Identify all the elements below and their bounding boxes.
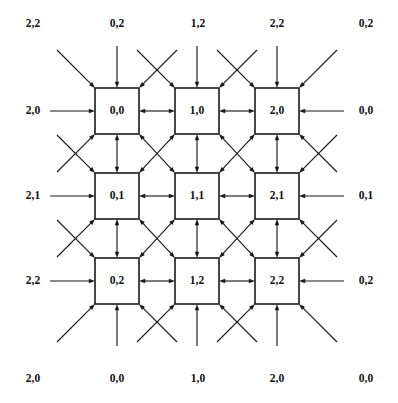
cell-label: 1,1 bbox=[190, 189, 205, 201]
edge-segment bbox=[57, 307, 92, 342]
border-arrow-right bbox=[299, 279, 344, 283]
cell-label: 2,0 bbox=[270, 104, 285, 116]
lattice-cell[interactable]: 2,1 bbox=[255, 173, 299, 219]
arrow-head-start bbox=[195, 219, 199, 225]
edge-segment bbox=[302, 222, 337, 257]
lattice-cell[interactable]: 0,0 bbox=[95, 88, 139, 134]
arrow-head-end bbox=[195, 252, 199, 258]
arrow-head-end bbox=[89, 194, 95, 198]
border-arrow-top bbox=[275, 46, 279, 88]
arrow-head-start bbox=[115, 219, 119, 225]
edge-segment bbox=[142, 50, 177, 85]
outer-diagonal-arrow-tr bbox=[299, 135, 337, 173]
cell-label: 1,0 bbox=[190, 104, 205, 116]
arrow-head-start bbox=[219, 279, 225, 283]
edge-segment bbox=[302, 307, 337, 342]
edge-segment bbox=[137, 307, 172, 342]
lattice-cell[interactable]: 0,2 bbox=[95, 258, 139, 304]
arrow-head-end bbox=[195, 167, 199, 173]
border-arrow-bottom bbox=[275, 304, 279, 346]
horizontal-arrow bbox=[219, 279, 255, 283]
border-label-right: 0,0 bbox=[359, 104, 374, 116]
lattice-cell[interactable]: 1,1 bbox=[175, 173, 219, 219]
arrow-head-end bbox=[275, 82, 279, 88]
lattice-cell[interactable]: 0,1 bbox=[95, 173, 139, 219]
horizontal-arrow bbox=[219, 109, 255, 113]
arrow-head-start bbox=[195, 134, 199, 140]
arrow-head-start bbox=[275, 219, 279, 225]
lattice-cell[interactable]: 2,2 bbox=[255, 258, 299, 304]
arrow-head-start bbox=[275, 134, 279, 140]
arrow-head-end bbox=[275, 304, 279, 310]
edge-segment bbox=[57, 50, 92, 85]
border-label-top: 2,2 bbox=[26, 17, 41, 29]
arrow-head-end bbox=[115, 304, 119, 310]
arrow-head-end bbox=[249, 279, 255, 283]
border-label-left: 2,2 bbox=[26, 274, 41, 286]
cell-label: 0,1 bbox=[110, 189, 125, 201]
horizontal-arrow bbox=[139, 279, 175, 283]
lattice-cell[interactable]: 2,0 bbox=[255, 88, 299, 134]
border-arrow-right bbox=[299, 109, 344, 113]
lattice-diagram-figure: 0,01,02,00,11,12,10,21,22,22,20,21,22,20… bbox=[0, 0, 398, 403]
border-label-bottom: 0,0 bbox=[359, 372, 374, 384]
horizontal-arrow bbox=[139, 194, 175, 198]
arrow-head-end bbox=[249, 109, 255, 113]
arrow-head-start bbox=[139, 109, 145, 113]
arrow-head-start bbox=[115, 134, 119, 140]
arrow-head-end bbox=[115, 167, 119, 173]
border-arrow-right bbox=[299, 194, 344, 198]
outer-diagonal-arrow-tl bbox=[57, 135, 95, 173]
edge-segment bbox=[217, 50, 252, 85]
vertical-arrow bbox=[275, 219, 279, 258]
border-label-top: 2,2 bbox=[270, 17, 285, 29]
cell-label: 0,0 bbox=[110, 104, 125, 116]
cell-label: 1,2 bbox=[190, 274, 205, 286]
arrow-head-end bbox=[169, 109, 175, 113]
outer-diagonal-arrow-tr bbox=[139, 50, 177, 88]
arrow-head-start bbox=[219, 194, 225, 198]
vertical-arrow bbox=[115, 134, 119, 173]
arrow-head-end bbox=[299, 279, 305, 283]
border-label-bottom: 0,0 bbox=[110, 372, 125, 384]
arrow-head-end bbox=[89, 279, 95, 283]
border-arrow-left bbox=[50, 109, 95, 113]
border-arrow-bottom bbox=[115, 304, 119, 346]
vertical-arrow bbox=[195, 219, 199, 258]
outer-diagonal-arrow-br bbox=[299, 134, 337, 172]
border-label-top: 1,2 bbox=[191, 17, 206, 29]
outer-diagonal-arrow-bl bbox=[57, 304, 95, 342]
edge-segment bbox=[57, 135, 92, 170]
cell-label: 0,2 bbox=[110, 274, 125, 286]
arrow-head-end bbox=[169, 279, 175, 283]
outer-diagonal-arrow-br bbox=[299, 304, 337, 342]
outer-diagonal-arrow-br bbox=[299, 219, 337, 257]
lattice-svg: 0,01,02,00,11,12,10,21,22,22,20,21,22,20… bbox=[0, 0, 398, 403]
outer-diagonal-arrow-tl bbox=[57, 50, 95, 88]
edge-segment bbox=[142, 307, 177, 342]
border-label-top: 0,2 bbox=[110, 17, 125, 29]
arrow-head-end bbox=[195, 304, 199, 310]
edge-segment bbox=[302, 50, 337, 85]
arrow-head-start bbox=[139, 194, 145, 198]
border-arrow-left bbox=[50, 279, 95, 283]
arrow-head-end bbox=[299, 194, 305, 198]
arrow-head-end bbox=[249, 194, 255, 198]
edge-segment bbox=[302, 137, 337, 172]
border-arrow-bottom bbox=[195, 304, 199, 346]
lattice-cell[interactable]: 1,2 bbox=[175, 258, 219, 304]
edge-segment bbox=[57, 137, 92, 172]
outer-diagonal-arrow-tr bbox=[219, 50, 257, 88]
outer-diagonal-arrow-bl bbox=[217, 304, 255, 342]
arrow-head-start bbox=[139, 279, 145, 283]
edge-segment bbox=[222, 307, 257, 342]
border-label-bottom: 1,0 bbox=[191, 372, 206, 384]
arrow-head-end bbox=[275, 252, 279, 258]
cell-label: 2,1 bbox=[270, 189, 285, 201]
lattice-cell[interactable]: 1,0 bbox=[175, 88, 219, 134]
edge-segment bbox=[57, 222, 92, 257]
outer-diagonal-arrow-tl bbox=[57, 220, 95, 258]
arrow-head-end bbox=[195, 82, 199, 88]
outer-diagonal-arrow-tl bbox=[217, 50, 255, 88]
edge-segment bbox=[302, 220, 337, 255]
